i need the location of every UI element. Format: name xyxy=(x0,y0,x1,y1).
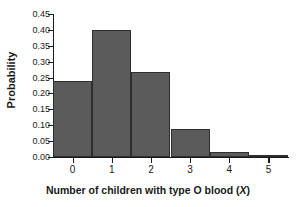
y-axis-tick-label: 0.25 xyxy=(18,73,50,83)
x-axis-title-text: Number of children with type O blood ( xyxy=(46,184,240,196)
y-axis-tick-label: 0.20 xyxy=(18,88,50,98)
y-axis-tick-label: 0.40 xyxy=(18,25,50,35)
x-axis-tick-mark xyxy=(151,158,152,163)
y-axis-tick-label: 0.15 xyxy=(18,104,50,114)
y-axis-tick-label: 0.10 xyxy=(18,120,50,130)
x-axis-title: Number of children with type O blood (X) xyxy=(0,184,296,196)
y-axis-tick-label: 0.00 xyxy=(18,152,50,162)
x-axis-tick-mark xyxy=(112,158,113,163)
y-axis-tick-label: 0.05 xyxy=(18,136,50,146)
histogram-figure: Probability 0.450.400.350.300.250.200.15… xyxy=(0,0,296,207)
y-axis-tick-label: 0.45 xyxy=(18,9,50,19)
x-axis-tick-label: 3 xyxy=(178,164,202,175)
x-axis-tick-label: 0 xyxy=(61,164,85,175)
y-axis-tick-label: 0.35 xyxy=(18,41,50,51)
x-axis-tick-label: 5 xyxy=(256,164,280,175)
x-axis-tick-mark xyxy=(229,158,230,163)
x-axis-tick-mark xyxy=(73,158,74,163)
y-axis-title-text: Probability xyxy=(5,52,17,109)
x-axis-tick-mark xyxy=(268,158,269,163)
bar xyxy=(53,81,92,157)
bar xyxy=(92,30,131,157)
x-axis-tick-mark xyxy=(190,158,191,163)
y-axis-tick-labels: 0.450.400.350.300.250.200.150.100.050.00 xyxy=(18,0,50,207)
bar xyxy=(249,155,288,157)
bar xyxy=(171,129,210,157)
bar xyxy=(210,152,249,157)
x-axis-tick-label: 4 xyxy=(217,164,241,175)
x-axis-tick-label: 1 xyxy=(100,164,124,175)
bar xyxy=(131,72,170,157)
x-axis-tick-labels: 012345 xyxy=(53,164,289,178)
y-axis-tick-label: 0.30 xyxy=(18,57,50,67)
plot-area xyxy=(53,14,288,157)
x-axis-title-variable: X xyxy=(240,184,247,196)
x-axis-title-suffix: ) xyxy=(247,184,251,196)
x-axis-tick-label: 2 xyxy=(139,164,163,175)
